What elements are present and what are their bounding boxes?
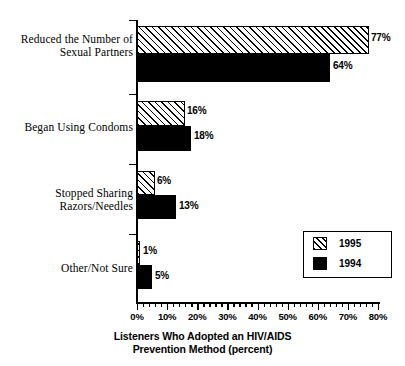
x-axis-major-tick: [378, 303, 379, 310]
x-axis-minor-tick: [233, 303, 234, 307]
category-label-3: Other/Not Sure: [61, 262, 133, 275]
x-axis-minor-tick: [143, 303, 144, 307]
x-axis-tick-label: 10%: [158, 311, 176, 322]
legend: 1995 1994: [303, 231, 392, 278]
x-axis-minor-tick: [185, 303, 186, 307]
x-axis-major-tick: [197, 303, 198, 310]
x-axis-minor-tick: [300, 303, 301, 307]
x-axis-minor-tick: [360, 303, 361, 307]
x-axis-tick-label: 40%: [248, 311, 266, 322]
value-label-1994-began-condoms: 18%: [194, 130, 213, 141]
legend-swatch-solid-icon: [313, 257, 327, 270]
x-axis-minor-tick: [354, 303, 355, 307]
bar-1994-stopped-sharing: [137, 195, 176, 219]
x-axis-minor-tick: [312, 303, 313, 307]
x-axis-minor-tick: [155, 303, 156, 307]
value-label-1995-stopped-sharing: 6%: [157, 175, 171, 186]
x-axis-tick-label: 0%: [130, 311, 143, 322]
y-axis-tick-0: [129, 20, 137, 21]
value-label-1995-reduced-partners: 77%: [371, 32, 390, 43]
x-axis-title: Listeners Who Adopted an HIV/AIDS Preven…: [0, 330, 405, 355]
x-axis-minor-tick: [215, 303, 216, 307]
x-axis-tick-label: 50%: [278, 311, 296, 322]
y-axis-tick-2: [129, 164, 137, 165]
x-axis-tick-label: 60%: [309, 311, 327, 322]
x-axis-minor-tick: [324, 303, 325, 307]
value-label-1994-reduced-partners: 64%: [333, 60, 352, 71]
bar-1995-other-not-sure: [137, 241, 140, 265]
value-label-1994-stopped-sharing: 13%: [179, 200, 198, 211]
x-axis-major-tick: [288, 303, 289, 310]
x-axis-minor-tick: [191, 303, 192, 307]
x-axis-major-tick: [227, 303, 228, 310]
legend-label-1994: 1994: [339, 258, 361, 269]
bar-chart: Reduced the Number of Sexual Partners Be…: [0, 0, 405, 366]
x-axis-minor-tick: [149, 303, 150, 307]
x-axis-minor-tick: [179, 303, 180, 307]
x-axis-tick-label: 20%: [188, 311, 206, 322]
x-axis-minor-tick: [251, 303, 252, 307]
x-axis-minor-tick: [342, 303, 343, 307]
legend-label-1995: 1995: [339, 238, 361, 249]
x-axis-minor-tick: [173, 303, 174, 307]
x-axis-minor-tick: [336, 303, 337, 307]
y-axis-tick-1: [129, 94, 137, 95]
x-axis-major-tick: [167, 303, 168, 310]
bar-1995-reduced-partners: [137, 26, 369, 54]
x-axis-minor-tick: [239, 303, 240, 307]
x-axis-tick-label: 80%: [369, 311, 387, 322]
x-axis-minor-tick: [221, 303, 222, 307]
x-axis-major-tick: [258, 303, 259, 310]
category-label-2: Stopped Sharing Razors/Needles: [55, 187, 133, 213]
value-label-1994-other-not-sure: 5%: [155, 270, 169, 281]
bar-1994-began-condoms: [137, 126, 191, 151]
x-axis-minor-tick: [276, 303, 277, 307]
x-axis-minor-tick: [245, 303, 246, 307]
x-axis-minor-tick: [270, 303, 271, 307]
x-axis-tick-label: 30%: [218, 311, 236, 322]
x-axis-minor-tick: [366, 303, 367, 307]
x-axis-major-tick: [318, 303, 319, 310]
value-label-1995-began-condoms: 16%: [187, 105, 206, 116]
x-axis-minor-tick: [282, 303, 283, 307]
x-axis-tick-label: 70%: [339, 311, 357, 322]
x-axis-minor-tick: [306, 303, 307, 307]
y-axis-tick-3: [129, 234, 137, 235]
category-label-1: Began Using Condoms: [24, 121, 133, 134]
bar-1994-reduced-partners: [137, 54, 330, 82]
category-label-0: Reduced the Number of Sexual Partners: [21, 33, 133, 59]
bar-1995-stopped-sharing: [137, 171, 155, 195]
legend-swatch-hatched-icon: [313, 237, 327, 250]
bar-1995-began-condoms: [137, 101, 185, 126]
x-axis-minor-tick: [264, 303, 265, 307]
x-axis-minor-tick: [330, 303, 331, 307]
x-axis-minor-tick: [372, 303, 373, 307]
x-axis-minor-tick: [161, 303, 162, 307]
x-axis-major-tick: [348, 303, 349, 310]
value-label-1995-other-not-sure: 1%: [143, 245, 157, 256]
x-axis-minor-tick: [209, 303, 210, 307]
x-axis-major-tick: [137, 303, 138, 310]
x-axis-minor-tick: [203, 303, 204, 307]
bar-1994-other-not-sure: [137, 265, 152, 289]
x-axis-minor-tick: [294, 303, 295, 307]
